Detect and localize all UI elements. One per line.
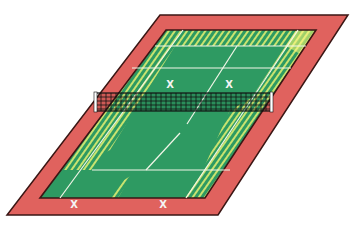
tennis-court-diagram: X X X X bbox=[0, 0, 356, 227]
net-post-right bbox=[270, 92, 273, 112]
marker-top-left: X bbox=[166, 79, 174, 90]
marker-bottom-left: X bbox=[70, 199, 78, 210]
court-illustration: X X X X bbox=[0, 0, 356, 227]
net-post-left bbox=[94, 92, 97, 112]
tennis-net bbox=[94, 92, 273, 112]
marker-bottom-right: X bbox=[159, 199, 167, 210]
marker-top-right: X bbox=[225, 79, 233, 90]
